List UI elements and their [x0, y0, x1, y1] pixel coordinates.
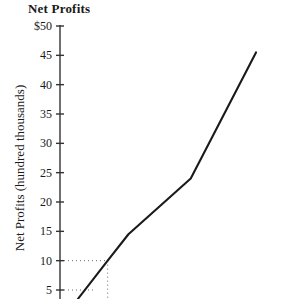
data-series — [78, 52, 256, 298]
net-profits-chart: Net Profits Net Profits (hundred thousan… — [0, 0, 281, 299]
plot-area — [0, 0, 281, 299]
y-axis — [56, 25, 64, 299]
guide-lines — [60, 261, 108, 299]
series-line — [78, 52, 256, 298]
